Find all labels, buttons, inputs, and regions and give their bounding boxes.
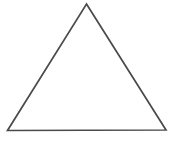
background-rect xyxy=(0,0,175,148)
triangle-figure xyxy=(0,0,175,148)
image-canvas xyxy=(0,0,175,148)
